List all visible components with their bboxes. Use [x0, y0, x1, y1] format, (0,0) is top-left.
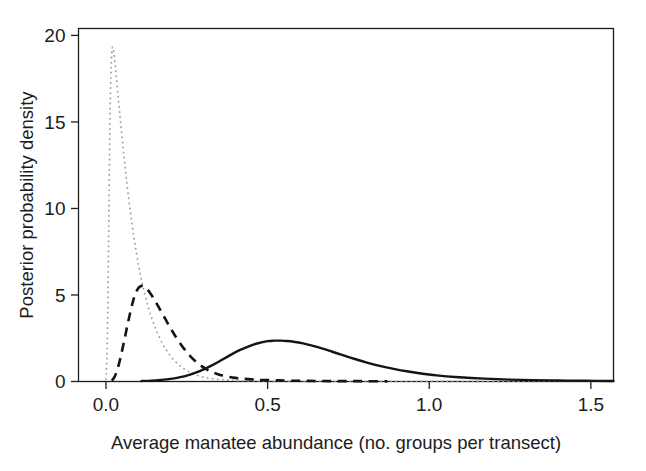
x-tick-label: 0.0: [93, 394, 119, 415]
x-tick-label: 0.5: [254, 394, 280, 415]
chart-canvas: 0.00.51.01.5 05101520 Average manatee ab…: [0, 0, 646, 471]
x-tick-label: 1.0: [416, 394, 442, 415]
y-tick-label: 10: [44, 198, 65, 219]
x-tick-label: 1.5: [578, 394, 604, 415]
x-axis-label: Average manatee abundance (no. groups pe…: [111, 432, 561, 453]
y-tick-label: 0: [55, 371, 66, 392]
y-tick-label: 15: [44, 112, 65, 133]
y-tick-label: 20: [44, 25, 65, 46]
y-tick-label: 5: [55, 285, 66, 306]
figure-container: 0.00.51.01.5 05101520 Average manatee ab…: [0, 0, 646, 471]
y-axis-label: Posterior probability density: [16, 91, 37, 319]
